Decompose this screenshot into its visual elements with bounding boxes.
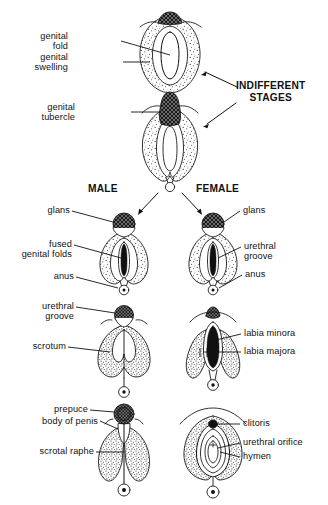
label-scrotal-raphe: scrotal raphe — [12, 446, 94, 456]
heading-female: FEMALE — [196, 183, 239, 195]
label-genital-swelling: genitalswelling — [5, 52, 68, 73]
figure-female-stage-2 — [186, 307, 240, 390]
label-labia-minora: labia minora — [244, 328, 295, 338]
label-fused-genital-folds-line1: fused — [49, 239, 72, 249]
heading-indifferent-line1: INDIFFERENT — [236, 80, 306, 91]
heading-indifferent-line2: STAGES — [236, 92, 306, 104]
figure-female-stage-1 — [189, 213, 237, 295]
label-genital-swelling-line1: genital — [40, 52, 68, 62]
label-genital-tubercle: genitaltubercle — [12, 102, 75, 123]
label-urethral-orifice: urethral orifice — [243, 437, 303, 447]
label-genital-fold: genitalfold — [10, 31, 68, 52]
label-prepuce: prepuce — [24, 404, 88, 414]
figure-indifferent-late — [142, 92, 198, 192]
label-fused-genital-folds-line2: genital folds — [22, 249, 72, 259]
label-fused-genital-folds: fusedgenital folds — [2, 239, 72, 260]
heading-male: MALE — [88, 183, 118, 195]
label-anus-male: anus — [26, 271, 74, 281]
label-clitoris: clitoris — [243, 418, 270, 428]
label-genital-swelling-line2: swelling — [35, 62, 68, 72]
diagram-canvas: genitalfold genitalswelling genitaltuber… — [0, 0, 328, 505]
label-anus-female: anus — [245, 269, 265, 279]
label-urethral-groove-male-line1: urethral — [42, 301, 74, 311]
figure-indifferent-early — [140, 12, 201, 93]
label-scrotum: scrotum — [14, 341, 66, 351]
label-urethral-groove-male: urethralgroove — [14, 301, 74, 322]
label-hymen: hymen — [243, 451, 271, 461]
label-glans-male: glans — [22, 205, 70, 215]
label-genital-fold-line2: fold — [53, 41, 68, 51]
label-glans-female: glans — [243, 205, 265, 215]
branch-arrows — [138, 193, 202, 215]
label-urethral-groove-female-line1: urethral — [244, 241, 276, 251]
label-genital-tubercle-line2: tubercle — [42, 112, 76, 122]
figure-female-newborn — [180, 408, 246, 498]
label-genital-tubercle-line1: genital — [47, 102, 75, 112]
figure-male-newborn — [98, 404, 149, 496]
label-body-of-penis: body of penis — [14, 416, 98, 426]
label-urethral-groove-female-line2: groove — [244, 251, 273, 261]
label-labia-majora: labia majora — [244, 346, 295, 356]
label-urethral-groove-female: urethralgroove — [244, 241, 276, 262]
label-urethral-groove-male-line2: groove — [45, 311, 74, 321]
indifferent-stage-leaders — [201, 71, 237, 128]
label-genital-fold-line1: genital — [40, 31, 68, 41]
heading-indifferent-stages: INDIFFERENTSTAGES — [236, 80, 306, 103]
